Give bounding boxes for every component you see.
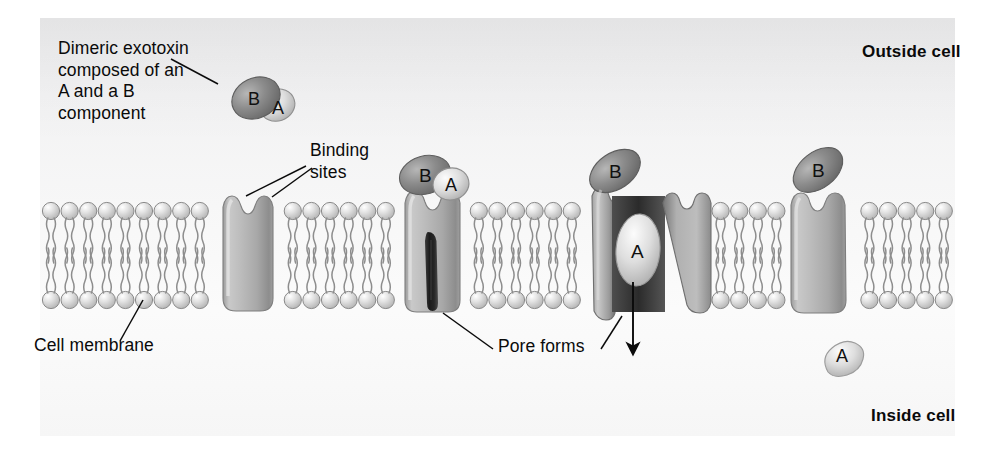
label-binding-sites: Binding sites: [310, 140, 369, 183]
leader-pore-right: [601, 316, 622, 349]
released-a-label: A: [836, 346, 848, 366]
receptor-closed-b-retained[interactable]: B: [785, 139, 851, 313]
svg-text:B: B: [812, 160, 825, 181]
dimer-a-label: A: [272, 98, 284, 118]
label-pore-forms: Pore forms: [498, 336, 585, 358]
figure-root: B A A B: [0, 0, 991, 459]
label-outside-cell: Outside cell: [862, 41, 961, 63]
b-subunit-open-receptor: B: [582, 140, 649, 201]
b-subunit-retained: B: [785, 139, 851, 202]
released-a-subunit[interactable]: A: [825, 341, 864, 376]
dimer-b-label: B: [248, 89, 260, 109]
svg-text:A: A: [445, 175, 457, 195]
label-cell-membrane: Cell membrane: [34, 335, 154, 357]
leader-pore-left: [443, 313, 493, 349]
svg-text:B: B: [609, 161, 622, 182]
free-exotoxin-dimer[interactable]: B A: [225, 69, 299, 127]
svg-text:B: B: [419, 165, 432, 186]
receptor-bound-pore-forming[interactable]: B A: [395, 150, 472, 312]
receptor-unbound[interactable]: [223, 196, 273, 311]
leader-binding-site-1: [246, 166, 306, 196]
label-dimeric-exotoxin: Dimeric exotoxin composed of an A and a …: [58, 38, 189, 124]
svg-text:A: A: [631, 241, 644, 262]
receptor-open-translocating[interactable]: A B: [582, 140, 711, 320]
label-inside-cell: Inside cell: [871, 405, 955, 427]
